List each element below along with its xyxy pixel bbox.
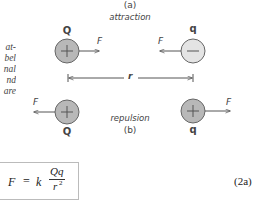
force-label-b-right-charge: F bbox=[226, 97, 231, 107]
equation-lhs: F bbox=[8, 175, 15, 190]
equation-exponent: 2 bbox=[59, 179, 63, 187]
panel-a-caption: attraction bbox=[95, 12, 165, 22]
force-label-a-left-charge: F bbox=[97, 36, 102, 46]
charge-q-b bbox=[181, 99, 205, 123]
charge-q-label-a: q bbox=[186, 23, 200, 34]
charge-Q-label-b: Q bbox=[60, 126, 74, 137]
equation-number: (2a) bbox=[234, 175, 252, 187]
charge-Q-label-a: Q bbox=[60, 25, 74, 36]
equation-denominator: r bbox=[53, 180, 57, 192]
charge-Q-b bbox=[55, 100, 79, 124]
equation-equals: = bbox=[23, 174, 30, 189]
panel-b-caption: repulsion bbox=[95, 113, 165, 123]
panel-b-label: (b) bbox=[100, 125, 160, 135]
charge-q-a bbox=[181, 39, 205, 63]
distance-label: r bbox=[128, 71, 132, 81]
force-label-b-left-charge: F bbox=[33, 97, 38, 107]
charge-q-label-b: q bbox=[186, 124, 200, 135]
panel-a-label: (a) bbox=[100, 0, 160, 10]
equation-constant: k bbox=[36, 175, 41, 190]
equation-numerator: Qq bbox=[50, 165, 63, 177]
force-label-a-right-charge: F bbox=[158, 36, 163, 46]
charge-Q-a bbox=[55, 39, 79, 63]
